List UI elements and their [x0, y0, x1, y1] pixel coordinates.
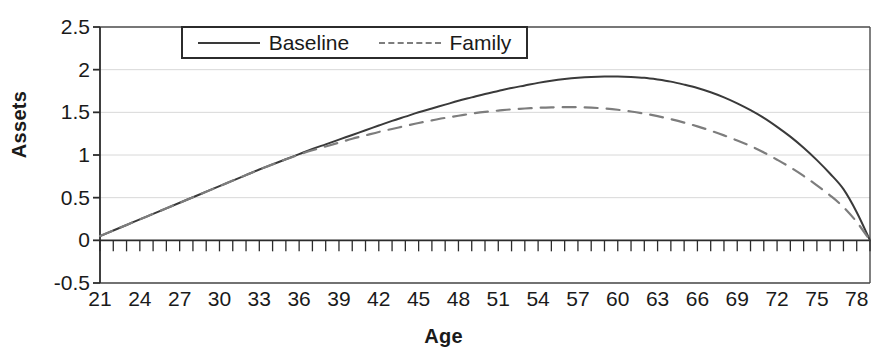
x-tick-label: 36: [277, 288, 321, 309]
x-tick-label: 75: [795, 288, 839, 309]
x-tick-label: 21: [78, 288, 122, 309]
legend-entry-family: Family: [379, 32, 512, 53]
x-tick-label: 54: [516, 288, 560, 309]
x-tick-label: 72: [755, 288, 799, 309]
x-tick-label: 30: [197, 288, 241, 309]
series-line-baseline: [100, 76, 870, 240]
assets-by-age-chart: 2.521.510.50-0.5 21242730333639424548515…: [0, 0, 887, 362]
chart-legend: Baseline Family: [181, 26, 528, 59]
zero-axis-with-ticks: [100, 240, 870, 251]
x-tick-label: 33: [237, 288, 281, 309]
y-axis-title: Assets: [8, 70, 31, 180]
data-series-group: [100, 76, 870, 240]
x-axis-title: Age: [0, 325, 887, 348]
x-tick-label: 63: [636, 288, 680, 309]
x-tick-label: 60: [596, 288, 640, 309]
x-tick-label: 42: [357, 288, 401, 309]
series-line-family: [100, 107, 870, 240]
legend-label-baseline: Baseline: [269, 32, 350, 53]
y-tick-label: 0.5: [10, 187, 90, 208]
x-tick-label: 69: [715, 288, 759, 309]
x-tick-label: 45: [397, 288, 441, 309]
x-tick-label: 51: [476, 288, 520, 309]
x-tick-label: 66: [675, 288, 719, 309]
x-tick-label: 24: [118, 288, 162, 309]
x-tick-label: 39: [317, 288, 361, 309]
y-tick-label: 0: [10, 229, 90, 250]
y-tick-label: 2.5: [10, 16, 90, 37]
x-tick-label: 57: [556, 288, 600, 309]
legend-line-dashed-icon: [379, 42, 441, 44]
x-tick-label: 48: [436, 288, 480, 309]
x-tick-label: 78: [835, 288, 879, 309]
legend-entry-baseline: Baseline: [198, 32, 350, 53]
y-axis: [93, 27, 100, 283]
legend-label-family: Family: [450, 32, 512, 53]
legend-line-solid-icon: [198, 42, 260, 44]
x-tick-label: 27: [158, 288, 202, 309]
